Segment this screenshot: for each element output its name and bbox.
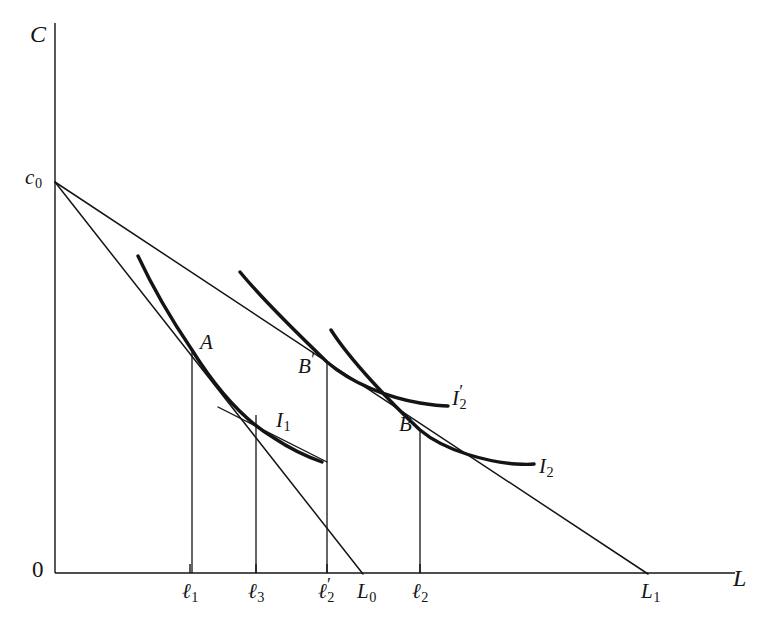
tick-label-ell2: ℓ2: [412, 581, 428, 602]
curve-label-I1: I1: [276, 410, 290, 431]
origin-label: 0: [32, 558, 44, 581]
tick-label-L1: L1: [641, 581, 660, 602]
curve-label-I2-prime: I′2: [452, 388, 470, 409]
tangent-segment-at-ell3: [218, 407, 327, 462]
curve-label-I2: I2: [539, 456, 553, 477]
point-label-A: A: [200, 332, 213, 353]
consumption-intercept-label: c0: [25, 167, 41, 188]
curve-label-I2-prime-subscript: 2: [459, 396, 466, 412]
tick-label-ell3-base: ℓ: [248, 579, 257, 603]
consumption-intercept-base: c: [25, 165, 34, 189]
tick-label-ell3-subscript: 3: [257, 589, 264, 605]
tick-label-ell2-base: ℓ: [412, 579, 421, 603]
prime-mark: ′: [311, 350, 315, 370]
tick-label-ell3: ℓ3: [248, 581, 264, 602]
point-label-B: B: [399, 414, 412, 435]
point-label-A-text: A: [200, 330, 213, 354]
tick-label-ell1-subscript: 1: [191, 589, 198, 605]
point-label-B-prime-text: B: [298, 354, 311, 378]
tick-label-ell2-prime: ℓ′2: [318, 581, 338, 602]
tick-label-L0-subscript: 0: [369, 589, 376, 605]
indifference-curve-figure: C L 0 c0 A B′ B I1 I′2 I2 ℓ1 ℓ3 ℓ′2 L0 ℓ…: [0, 0, 770, 627]
tick-label-L0-base: L: [357, 579, 369, 603]
curve-label-I2-prime-base: I: [452, 386, 459, 410]
indifference-curve-I1: [138, 256, 322, 462]
tick-label-L1-subscript: 1: [653, 589, 660, 605]
point-label-B-text: B: [399, 412, 412, 436]
tick-label-ell2-prime-subscript: 2: [327, 589, 334, 605]
tick-label-L1-base: L: [641, 579, 653, 603]
curve-label-I1-base: I: [276, 408, 283, 432]
y-axis-label: C: [30, 22, 46, 46]
curve-label-I2-subscript: 2: [547, 464, 554, 480]
curve-label-I2-base: I: [539, 454, 546, 478]
diagram-canvas: [0, 0, 770, 627]
curve-label-I1-subscript: 1: [284, 418, 291, 434]
tick-label-L0: L0: [357, 581, 376, 602]
point-label-B-prime: B′: [298, 356, 315, 377]
consumption-intercept-subscript: 0: [35, 175, 42, 191]
x-axis-label: L: [733, 566, 746, 590]
indifference-curve-I2-prime: [240, 272, 448, 406]
indifference-curve-I2: [331, 330, 534, 464]
tick-label-ell1: ℓ1: [182, 581, 198, 602]
tick-label-ell2-prime-base: ℓ: [318, 579, 327, 603]
tick-label-ell1-base: ℓ: [182, 579, 191, 603]
tick-label-ell2-subscript: 2: [421, 589, 428, 605]
